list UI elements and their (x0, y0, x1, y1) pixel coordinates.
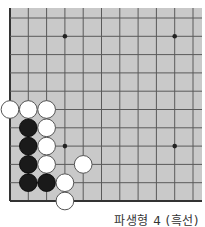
white-stone (38, 119, 56, 137)
black-stone (19, 174, 37, 192)
diagram-caption: 파생형 4 (흑선) (114, 211, 199, 227)
star-point (63, 34, 68, 39)
black-stone (38, 174, 56, 192)
white-stone (56, 174, 74, 192)
white-stone (19, 101, 37, 119)
white-stone (74, 156, 92, 174)
white-stone (38, 137, 56, 155)
star-point (172, 34, 177, 39)
black-stone (19, 156, 37, 174)
go-board (0, 0, 205, 227)
white-stone (38, 101, 56, 119)
white-stone (1, 101, 19, 119)
star-point (172, 144, 177, 149)
black-stone (19, 119, 37, 137)
star-point (63, 144, 68, 149)
black-stone (19, 137, 37, 155)
white-stone (38, 156, 56, 174)
white-stone (56, 192, 74, 210)
